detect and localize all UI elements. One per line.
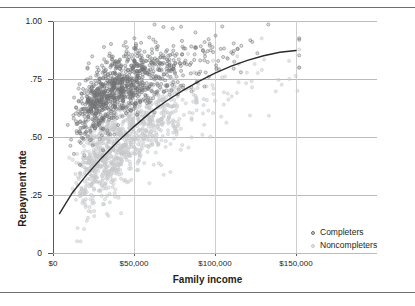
plot-area: Completers Noncompleters xyxy=(53,21,377,253)
legend-item-completers: Completers xyxy=(311,226,377,239)
legend-marker-completers-icon xyxy=(311,231,315,235)
x-axis-title: Family income xyxy=(0,274,415,285)
x-axis-tick-label: $50,000 xyxy=(99,259,169,268)
trend-line-path xyxy=(60,51,297,214)
figure-bottom-rule xyxy=(0,292,415,293)
legend-label-noncompleters: Noncompleters xyxy=(320,239,377,252)
figure-top-rule xyxy=(0,7,415,8)
legend-label-completers: Completers xyxy=(320,226,363,239)
x-axis-tick-label: $100,000 xyxy=(180,259,250,268)
trend-line xyxy=(53,21,377,253)
y-axis-tick-label: 0 xyxy=(2,248,42,258)
y-axis-tick-label: .50 xyxy=(2,132,42,142)
chart-legend: Completers Noncompleters xyxy=(311,226,377,252)
x-axis-tick-label: $150,000 xyxy=(261,259,331,268)
x-axis-tick-label: $0 xyxy=(18,259,88,268)
gridline-horizontal xyxy=(53,253,377,254)
y-axis-tick-label: .75 xyxy=(2,74,42,84)
legend-item-noncompleters: Noncompleters xyxy=(311,239,377,252)
y-axis-tick-label: 1.00 xyxy=(2,16,42,26)
legend-marker-noncompleters-icon xyxy=(311,244,315,248)
figure-container: Repayment rate 0.25.50.751.00 $0$50,000$… xyxy=(0,0,415,306)
y-axis-tick-label: .25 xyxy=(2,190,42,200)
y-axis-title: Repayment rate xyxy=(17,129,28,249)
